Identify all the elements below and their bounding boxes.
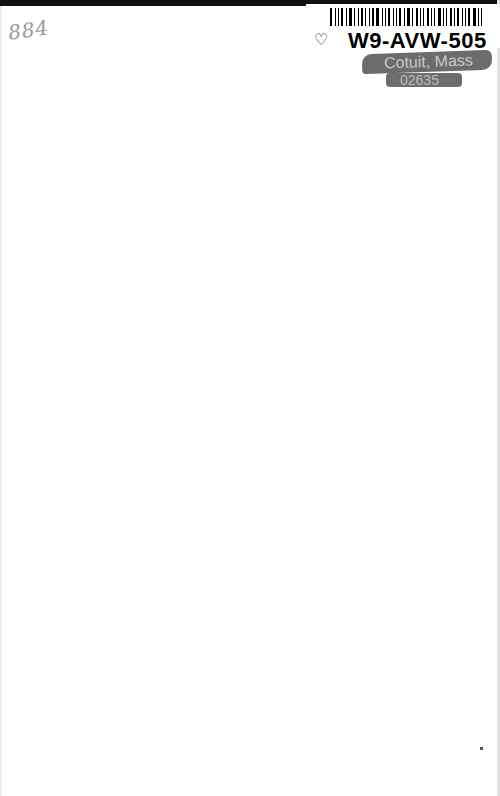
speck bbox=[480, 747, 483, 750]
stamp-zip-text: 02635 bbox=[400, 72, 439, 88]
stamp-zip: 02635 bbox=[386, 73, 462, 87]
barcode bbox=[330, 8, 490, 26]
left-edge bbox=[0, 6, 2, 796]
heart-icon: ♡ bbox=[314, 30, 328, 49]
stamp-location-text: Cotuit, Mass bbox=[384, 51, 473, 72]
library-label: ♡ W9-AVW-505 bbox=[306, 4, 500, 48]
handwritten-note: 884 bbox=[7, 15, 51, 44]
stamp-location: Cotuit, Mass bbox=[362, 50, 493, 75]
